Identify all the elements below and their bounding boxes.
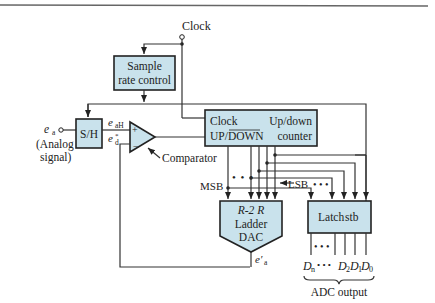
latch-ellipsis: • • • bbox=[314, 241, 330, 252]
svg-text:Latch: Latch bbox=[318, 211, 344, 223]
adc-output-label: ADC output bbox=[311, 286, 368, 299]
svg-text:Sample: Sample bbox=[127, 60, 162, 73]
adc-block-diagram: Clock Sample rate control e a (Analog si… bbox=[0, 0, 435, 303]
svg-text:signal): signal) bbox=[40, 151, 71, 164]
lsb-ellipsis: • • • bbox=[313, 179, 329, 190]
dac-output-label: e′ a bbox=[255, 253, 268, 267]
dac-feedback-label: e d * bbox=[108, 132, 119, 147]
svg-text:e: e bbox=[108, 132, 113, 144]
lsb-label: LSB bbox=[288, 178, 308, 190]
svg-text:(Analog: (Analog bbox=[36, 138, 74, 151]
svg-text:e: e bbox=[44, 123, 49, 135]
svg-text:0: 0 bbox=[369, 265, 373, 274]
svg-text:DAC: DAC bbox=[239, 231, 264, 243]
svg-text:Ladder: Ladder bbox=[235, 218, 268, 230]
svg-text:rate control: rate control bbox=[118, 74, 171, 86]
svg-text:R-2 R: R-2 R bbox=[237, 204, 265, 216]
output-brace bbox=[304, 276, 374, 284]
svg-text:UP/DOWN: UP/DOWN bbox=[210, 130, 264, 142]
sample-rate-control-block: Sample rate control bbox=[114, 56, 175, 90]
clock-input: Clock bbox=[180, 19, 211, 39]
svg-text:n: n bbox=[311, 265, 315, 274]
svg-text:stb: stb bbox=[345, 211, 359, 223]
svg-text:e′: e′ bbox=[255, 253, 263, 265]
updown-counter-block: Clock UP/DOWN Up/down counter bbox=[205, 110, 317, 146]
svg-text:• • •: • • • bbox=[317, 260, 331, 270]
comparator-label: Comparator bbox=[162, 152, 217, 165]
bits-ellipsis: • • • bbox=[232, 171, 254, 183]
msb-label: MSB bbox=[200, 180, 223, 192]
sample-hold-block: S/H bbox=[76, 119, 102, 148]
top-rule bbox=[0, 5, 428, 6]
svg-text:counter: counter bbox=[278, 130, 313, 142]
svg-text:Clock: Clock bbox=[210, 115, 238, 127]
comparator: + − bbox=[130, 122, 155, 152]
svg-text:e: e bbox=[108, 116, 113, 128]
sh-output-label: e aH bbox=[108, 116, 124, 130]
svg-text:−: − bbox=[133, 141, 139, 152]
svg-text:*: * bbox=[115, 132, 119, 140]
svg-text:a: a bbox=[264, 258, 268, 267]
adc-output-bits: D n • • • D 2 D 1 D 0 bbox=[302, 259, 373, 274]
r2r-ladder-dac-block: R-2 R Ladder DAC bbox=[220, 201, 282, 252]
svg-text:+: + bbox=[132, 124, 138, 135]
svg-text:Up/down: Up/down bbox=[269, 115, 312, 128]
svg-text:S/H: S/H bbox=[80, 128, 98, 140]
clock-label: Clock bbox=[182, 19, 211, 33]
svg-text:a: a bbox=[52, 128, 56, 137]
svg-text:aH: aH bbox=[115, 121, 124, 130]
analog-input: e a (Analog signal) bbox=[36, 123, 74, 164]
latch-block: Latch stb bbox=[308, 201, 371, 233]
